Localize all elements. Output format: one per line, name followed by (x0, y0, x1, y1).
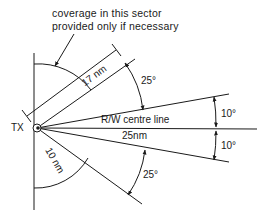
note-line-2: provided only if necessary (52, 21, 179, 32)
centre-range-label: 25nm (122, 131, 147, 141)
note-line-1: coverage in this sector (52, 8, 162, 19)
centre-line-label: R/W centre line (101, 115, 169, 125)
centre-line (37, 128, 257, 129)
upper-10deg-arc (214, 97, 216, 127)
note-pointer (55, 34, 74, 66)
lower-inner-angle-label: 10° (221, 141, 236, 151)
upper-outer-angle-label: 25° (141, 76, 156, 86)
lower-outer-angle-label: 25° (143, 170, 158, 180)
dimension-tick-start (22, 110, 31, 122)
dimension-line-17nm (27, 50, 116, 116)
upper-inner-angle-label: 10° (221, 109, 236, 119)
lower-10deg-arc (214, 131, 216, 160)
upper-25deg-arc (125, 63, 143, 110)
transmitter-label: TX (11, 123, 24, 133)
dimension-tick-end (112, 44, 121, 56)
